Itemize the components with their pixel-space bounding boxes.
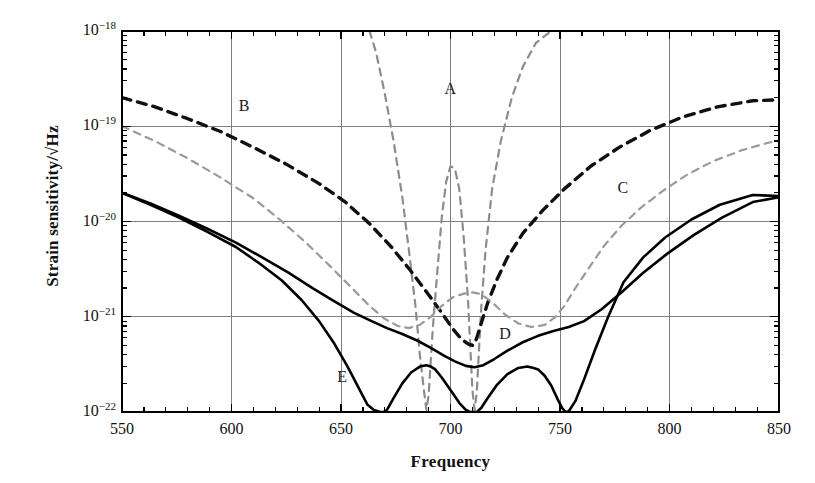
y-tick-label: 10−21 <box>42 307 116 325</box>
curve-label-C: C <box>618 179 629 197</box>
curve-label-E: E <box>337 368 347 386</box>
strain-sensitivity-figure: Strain sensitivity/√Hz Frequency 10−1810… <box>0 0 815 483</box>
x-tick-label: 850 <box>739 420 815 438</box>
x-tick-label: 550 <box>82 420 162 438</box>
x-tick-label: 700 <box>411 420 491 438</box>
y-tick-label: 10−18 <box>42 21 116 39</box>
curve-label-A: A <box>445 80 457 98</box>
x-tick-label: 800 <box>630 420 710 438</box>
plot-canvas <box>0 0 815 483</box>
y-tick-label: 10−22 <box>42 402 116 420</box>
x-tick-label: 650 <box>301 420 381 438</box>
x-tick-label: 750 <box>520 420 600 438</box>
x-tick-label: 600 <box>192 420 272 438</box>
curve-label-D: D <box>499 325 511 343</box>
curve-label-B: B <box>239 97 250 115</box>
x-axis-label: Frequency <box>122 452 779 472</box>
y-tick-label: 10−20 <box>42 212 116 230</box>
y-tick-label: 10−19 <box>42 116 116 134</box>
